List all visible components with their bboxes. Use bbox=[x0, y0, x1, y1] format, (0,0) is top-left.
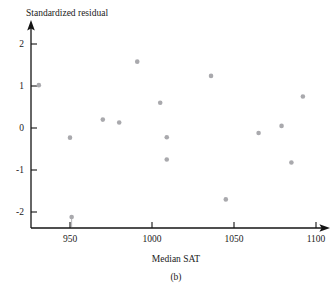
y-tick-group: -2-1012 bbox=[16, 39, 37, 217]
data-point bbox=[101, 117, 106, 122]
data-point bbox=[209, 74, 214, 79]
data-point bbox=[164, 157, 169, 162]
data-point bbox=[289, 160, 294, 165]
data-point-group bbox=[37, 59, 306, 227]
scatter-plot-figure: Standardized residual -2-1012 9501000105… bbox=[0, 0, 336, 284]
plot-canvas: Standardized residual -2-1012 9501000105… bbox=[0, 0, 336, 284]
x-tick-label: 1050 bbox=[225, 234, 244, 244]
data-point bbox=[301, 94, 306, 99]
x-tick-group: 950100010501100 bbox=[63, 222, 326, 244]
y-axis-title: Standardized residual bbox=[26, 8, 108, 18]
x-axis-title: Median SAT bbox=[152, 254, 200, 264]
data-point bbox=[256, 131, 261, 136]
data-point bbox=[117, 120, 122, 125]
data-point bbox=[158, 101, 163, 106]
data-point bbox=[135, 59, 140, 64]
data-point bbox=[164, 135, 169, 140]
x-tick-label: 950 bbox=[63, 234, 78, 244]
y-tick-label: 2 bbox=[19, 39, 24, 49]
data-point bbox=[279, 124, 284, 129]
panel-label: (b) bbox=[170, 272, 181, 283]
data-point bbox=[68, 135, 73, 140]
y-tick-label: 0 bbox=[19, 123, 24, 133]
x-axis bbox=[31, 224, 330, 232]
data-point bbox=[69, 215, 74, 220]
y-axis bbox=[27, 20, 35, 228]
y-tick-label: 1 bbox=[19, 81, 24, 91]
data-point bbox=[224, 197, 229, 202]
y-tick-label: -2 bbox=[16, 207, 24, 217]
data-point bbox=[37, 83, 42, 88]
y-tick-label: -1 bbox=[16, 165, 24, 175]
x-tick-label: 1100 bbox=[307, 234, 326, 244]
x-tick-label: 1000 bbox=[143, 234, 162, 244]
